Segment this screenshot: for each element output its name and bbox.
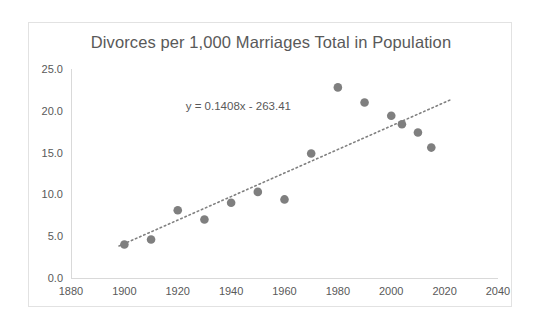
x-axis-tick-labels: 188019001920194019601980200020202040 [59,285,510,297]
y-tick-label: 0.0 [48,272,63,284]
x-tick-label: 1960 [272,285,296,297]
data-point [398,120,407,129]
x-tick-label: 2020 [432,285,456,297]
data-point [414,128,423,137]
y-tick-label: 10.0 [42,188,63,200]
data-point [280,195,289,204]
x-tick-label: 1920 [166,285,190,297]
x-tick-label: 2000 [379,285,403,297]
x-tick-label: 1940 [219,285,243,297]
data-point [334,83,343,92]
y-tick-label: 5.0 [48,230,63,242]
x-tick-label: 2040 [486,285,510,297]
y-tick-label: 25.0 [42,63,63,75]
data-point [360,98,369,107]
y-tick-label: 15.0 [42,147,63,159]
x-tick-label: 1900 [112,285,136,297]
data-point [147,235,156,244]
data-point [173,206,182,215]
scatter-plot: 0.05.010.015.020.025.0 18801900192019401… [29,23,513,308]
y-axis-tick-labels: 0.05.010.015.020.025.0 [42,63,63,284]
data-point [387,112,396,121]
x-tick-label: 1980 [326,285,350,297]
x-tick-label: 1880 [59,285,83,297]
data-point [427,143,436,152]
chart-frame: Divorces per 1,000 Marriages Total in Po… [28,22,512,307]
data-point [200,215,209,224]
data-point [120,240,129,249]
data-point [254,188,263,197]
data-point [307,149,316,158]
y-tick-label: 20.0 [42,105,63,117]
data-point [227,198,236,207]
trendline-equation-label: y = 0.1408x - 263.41 [186,100,291,112]
